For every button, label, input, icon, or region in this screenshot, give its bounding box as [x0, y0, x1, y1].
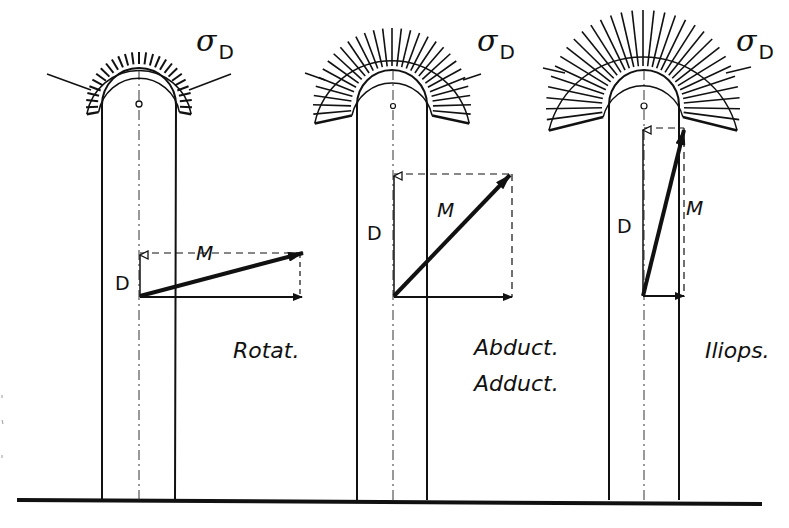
- sigma-subscript: D: [499, 40, 514, 64]
- vector-M: [394, 175, 510, 296]
- hip-force-diagram: [0, 0, 789, 528]
- vertical-force-label: D: [617, 217, 632, 236]
- sigma-subscript: D: [218, 40, 233, 64]
- panel-rotat: [47, 52, 303, 500]
- resultant-label: M: [686, 198, 703, 218]
- sigma-subscript: D: [758, 40, 773, 64]
- sigma-symbol: σ: [196, 23, 216, 58]
- rotation-center: [641, 103, 647, 109]
- sigma-label: σD: [477, 26, 515, 56]
- ground-line: [17, 500, 762, 504]
- resultant-label: M: [196, 243, 213, 263]
- sigma-label: σD: [196, 26, 234, 56]
- rotation-center: [136, 101, 142, 107]
- pressure-distribution: [313, 28, 471, 123]
- sigma-symbol: σ: [736, 23, 756, 58]
- femur-column: [357, 70, 427, 500]
- caption-abduct: Abduct.: [474, 337, 559, 359]
- vector-M: [140, 253, 303, 296]
- vertical-force-label: D: [367, 224, 382, 243]
- panel-iliops: [543, 10, 751, 500]
- panel-abduct: [305, 28, 512, 500]
- vertical-force-label: D: [115, 274, 130, 293]
- resultant-label: M: [437, 200, 454, 220]
- sigma-label: σD: [736, 26, 774, 56]
- caption-rotat: Rotat.: [233, 340, 299, 362]
- vector-M: [643, 130, 684, 296]
- sigma-symbol: σ: [477, 23, 497, 58]
- rotation-center: [391, 104, 396, 109]
- edge-marks: [2, 395, 3, 458]
- caption-adduct: Adduct.: [474, 373, 559, 395]
- caption-iliops: Iliops.: [705, 340, 770, 362]
